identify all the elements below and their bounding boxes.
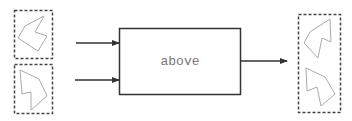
input-bottom-frame [15,65,53,114]
polygon-arrow-shape-icon [304,19,331,58]
polygon-arrow-shape-icon [20,70,47,110]
polygon-arrow-shape-icon [18,16,47,51]
output-frame [299,15,341,113]
input-top-frame [15,11,53,59]
polygon-arrow-shape-icon [306,68,335,106]
operation-label: above [119,28,241,95]
